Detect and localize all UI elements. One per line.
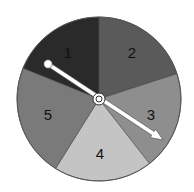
hub-center-icon (96, 96, 102, 102)
section-label: 2 (128, 44, 136, 61)
section-label: 3 (147, 106, 155, 123)
section-label: 5 (44, 106, 52, 123)
section-label: 4 (96, 145, 104, 162)
section-label: 1 (64, 44, 72, 61)
pointer-tail-knob (44, 60, 52, 68)
spinner: 12345 (0, 0, 194, 192)
